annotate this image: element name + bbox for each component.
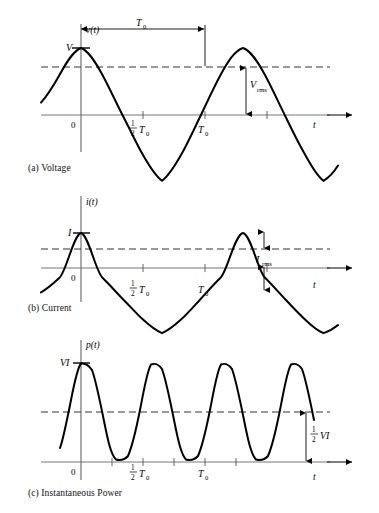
svg-text:2: 2 <box>312 436 316 444</box>
voltage-full-period-label: T 0 <box>198 124 209 137</box>
svg-text:2: 2 <box>131 130 135 138</box>
current-t-axis-label: t <box>313 280 316 290</box>
voltage-rms-label: V rms <box>250 79 267 93</box>
svg-text:2: 2 <box>131 290 135 298</box>
svg-text:T: T <box>139 284 146 295</box>
svg-text:1: 1 <box>312 426 316 434</box>
waveform-figure-svg: v(t) V 0 t T 0 1 2 T 0 T 0 <box>0 0 379 513</box>
svg-text:T: T <box>198 468 205 479</box>
panel-current: i(t) I 0 t 1 2 T 0 T 0 I rms <box>41 196 352 333</box>
svg-text:T: T <box>198 124 205 135</box>
svg-text:T: T <box>139 124 146 135</box>
svg-text:0: 0 <box>205 130 209 137</box>
svg-text:0: 0 <box>146 290 150 297</box>
power-average-label: 1 2 VI <box>311 426 331 444</box>
caption-voltage: (a) Voltage <box>28 163 71 173</box>
svg-text:T: T <box>136 17 143 28</box>
svg-text:T: T <box>198 284 205 295</box>
current-y-axis-label: i(t) <box>86 197 98 208</box>
voltage-period-label: T 0 <box>136 17 147 30</box>
current-half-period-label: 1 2 T 0 <box>130 280 151 298</box>
power-peak-label: VI <box>60 357 70 368</box>
svg-text:1: 1 <box>131 120 135 128</box>
svg-text:T: T <box>139 468 146 479</box>
voltage-y-axis-label: v(t) <box>86 25 99 36</box>
voltage-half-period-label: 1 2 T 0 <box>130 120 151 138</box>
panel-voltage: v(t) V 0 t T 0 1 2 T 0 T 0 <box>41 17 352 181</box>
caption-power: (c) Instantaneous Power <box>28 488 122 498</box>
svg-text:1: 1 <box>131 280 135 288</box>
svg-text:2: 2 <box>131 474 135 482</box>
svg-text:VI: VI <box>320 430 330 441</box>
power-half-period-label: 1 2 T 0 <box>130 464 151 482</box>
caption-current: (b) Current <box>28 303 72 313</box>
svg-text:1: 1 <box>131 464 135 472</box>
current-origin-label: 0 <box>71 273 76 283</box>
panel-power: p(t) VI 0 t 1 2 T 0 T 0 1 2 VI <box>41 340 352 482</box>
power-y-axis-label: p(t) <box>85 340 100 351</box>
figure-root: v(t) V 0 t T 0 1 2 T 0 T 0 <box>0 0 379 513</box>
current-peak-label: I <box>67 227 72 238</box>
current-waveform-curve <box>41 233 338 333</box>
svg-text:rms: rms <box>262 260 272 267</box>
voltage-origin-label: 0 <box>71 120 76 130</box>
power-origin-label: 0 <box>71 467 76 477</box>
svg-text:0: 0 <box>146 474 150 481</box>
voltage-t-axis-label: t <box>313 120 316 130</box>
svg-text:rms: rms <box>257 86 267 93</box>
power-t-axis-label: t <box>313 472 316 482</box>
svg-text:I: I <box>255 254 260 265</box>
power-full-period-label: T 0 <box>198 468 209 481</box>
svg-text:0: 0 <box>146 130 150 137</box>
svg-text:0: 0 <box>205 474 209 481</box>
voltage-waveform-curve <box>41 48 338 181</box>
